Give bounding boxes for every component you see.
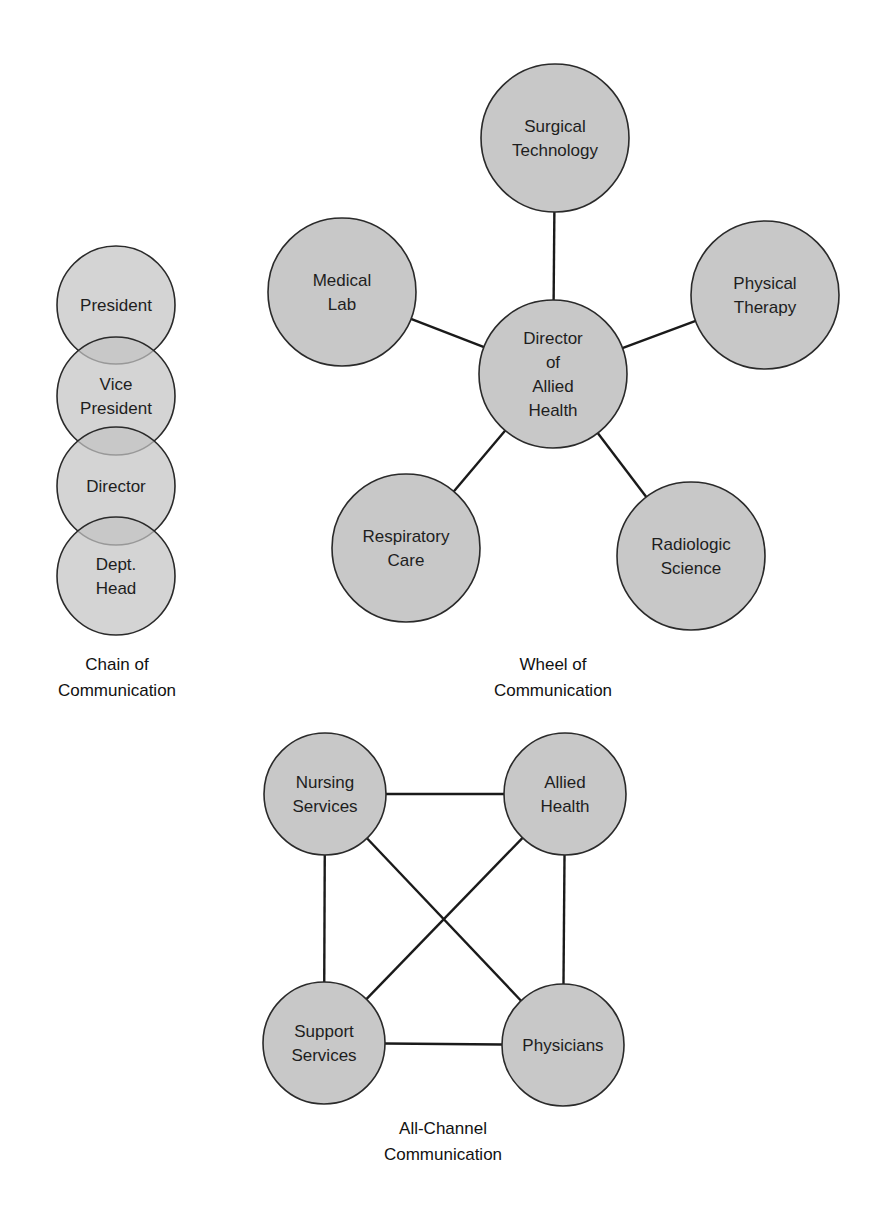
node-label: Dept. [96,555,137,574]
node-label: Allied [532,377,574,396]
wheel-caption-line-1: Wheel of [519,655,586,674]
node-radiologic-science: RadiologicScience [617,482,765,630]
node-director-of-allied-health: DirectorofAlliedHealth [479,300,627,448]
node-label: Radiologic [651,535,731,554]
node-circle [332,474,480,622]
node-label: Allied [544,773,586,792]
connector-line [554,212,555,300]
connector-line [563,855,564,984]
node-label: Technology [512,141,599,160]
node-label: Science [661,559,721,578]
node-label: Director [86,477,146,496]
node-label: Surgical [524,117,585,136]
node-label: Medical [313,271,372,290]
connector-line [411,319,484,347]
all-channel-caption: All-Channel Communication [384,1119,502,1164]
node-label: Vice [100,375,133,394]
node-label: Care [388,551,425,570]
node-label: Head [96,579,137,598]
node-label: Respiratory [363,527,450,546]
node-support-services: SupportServices [263,982,385,1104]
all-channel-caption-line-1: All-Channel [399,1119,487,1138]
all-channel-caption-line-2: Communication [384,1145,502,1164]
node-label: Physicians [522,1036,603,1055]
connector-line [385,1044,502,1045]
chain-caption-line-2: Communication [58,681,176,700]
connector-line [598,433,647,497]
connector-line [622,321,695,348]
node-label: Support [294,1022,354,1041]
chain-caption-line-1: Chain of [85,655,149,674]
node-circle [57,517,175,635]
connector-line [324,855,325,982]
chain-of-communication-diagram: PresidentVicePresidentDirectorDept.Head [57,246,175,635]
node-surgical-technology: SurgicalTechnology [481,64,629,212]
node-allied-health: AlliedHealth [504,733,626,855]
chain-caption: Chain of Communication [58,655,176,700]
node-circle [264,733,386,855]
connector-line [454,431,505,492]
node-label: Lab [328,295,356,314]
node-physicians: Physicians [502,984,624,1106]
node-label: President [80,399,152,418]
node-label: Health [540,797,589,816]
node-label: Physical [733,274,796,293]
node-label: Director [523,329,583,348]
node-dept-head: Dept.Head [57,517,175,635]
node-physical-therapy: PhysicalTherapy [691,221,839,369]
communication-diagrams: PresidentVicePresidentDirectorDept.Head … [0,0,883,1218]
node-respiratory-care: RespiratoryCare [332,474,480,622]
node-label: Services [292,797,357,816]
wheel-caption-line-2: Communication [494,681,612,700]
node-circle [268,218,416,366]
node-circle [617,482,765,630]
node-circle [263,982,385,1104]
wheel-of-communication-diagram: DirectorofAlliedHealthSurgicalTechnology… [268,64,839,630]
node-label: President [80,296,152,315]
node-nursing-services: NursingServices [264,733,386,855]
node-label: of [546,353,560,372]
node-circle [691,221,839,369]
node-label: Therapy [734,298,797,317]
node-medical-lab: MedicalLab [268,218,416,366]
node-circle [504,733,626,855]
node-circle [479,300,627,448]
node-circle [481,64,629,212]
node-label: Services [291,1046,356,1065]
node-label: Health [528,401,577,420]
node-label: Nursing [296,773,355,792]
wheel-caption: Wheel of Communication [494,655,612,700]
